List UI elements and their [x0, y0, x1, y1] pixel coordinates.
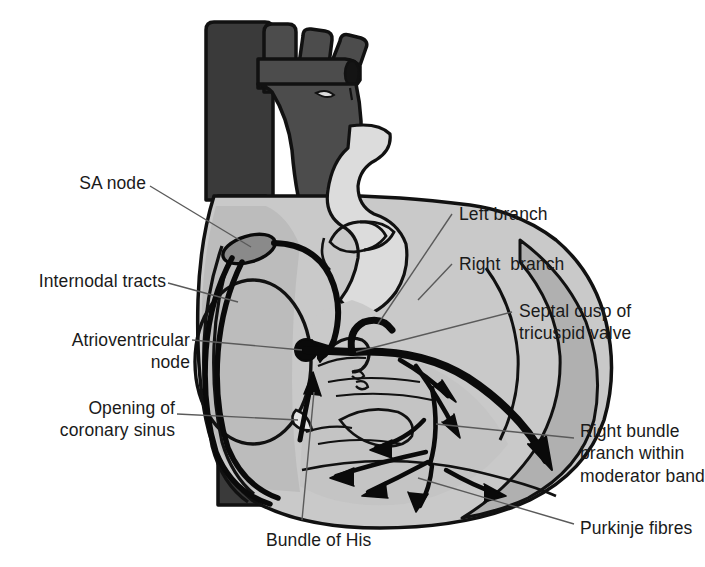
label-left-branch: Left branch — [459, 203, 649, 225]
label-opening-coronary-sinus: Opening of coronary sinus — [0, 397, 175, 442]
label-bundle-of-his: Bundle of His — [266, 529, 456, 551]
label-atrioventricular-node: Atrioventricular node — [0, 329, 190, 374]
label-right-branch: Right branch — [459, 253, 659, 275]
bundle-of-his-shape — [306, 350, 352, 352]
label-right-bundle-branch: Right bundle branch within moderator ban… — [580, 420, 690, 487]
label-septal-cusp: Septal cusp of tricuspid valve — [519, 300, 699, 345]
label-purkinje-fibres: Purkinje fibres — [580, 517, 690, 539]
label-internodal-tracts: Internodal tracts — [0, 270, 166, 292]
label-sa-node: SA node — [10, 172, 146, 194]
